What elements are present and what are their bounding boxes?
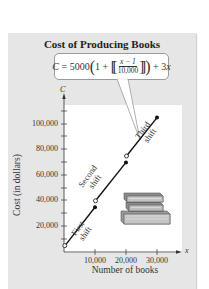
y-tick-label: 40,000 [18, 195, 58, 204]
books-illustration-icon [121, 193, 170, 224]
closed-point [93, 205, 97, 209]
y-tick-label: 20,000 [18, 221, 58, 230]
x-axis-arrow-icon [176, 250, 182, 253]
y-tick-label: 100,000 [18, 119, 58, 128]
x-axis-title: Number of books [70, 265, 180, 275]
x-tick-label: 30,000 [139, 256, 175, 265]
x-axis-letter: x [185, 246, 189, 255]
y-axis-letter: C [60, 85, 65, 94]
closed-point [155, 116, 159, 120]
y-tick-label: 80,000 [18, 144, 58, 153]
open-point [125, 154, 129, 158]
closed-point [124, 160, 128, 164]
open-point [94, 199, 98, 203]
open-point [63, 244, 67, 248]
y-tick-label: 60,000 [18, 170, 58, 179]
y-axis-title: Cost (in dollars) [12, 140, 22, 230]
